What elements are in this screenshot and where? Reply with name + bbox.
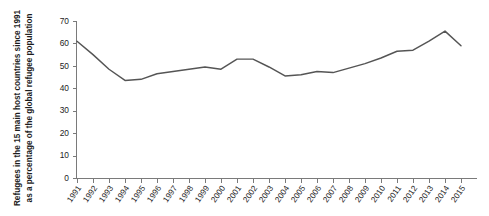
x-tick-label: 2009 [353,184,371,204]
x-tick-label: 2003 [257,184,275,204]
y-tick-label-group: 010203040506070 [60,16,70,183]
x-tick-label: 2015 [449,184,467,204]
x-tick-label: 2006 [305,184,323,204]
x-tick-label: 1992 [81,184,99,204]
x-tick-label: 1995 [129,184,147,204]
x-tick-label: 1991 [65,184,83,204]
x-tick-label: 2014 [433,184,451,204]
x-tick-label: 1994 [113,184,131,204]
x-tick-label: 1996 [145,184,163,204]
x-tick-label: 2000 [209,184,227,204]
x-tick-label: 1997 [161,184,179,204]
y-tick-label: 20 [60,128,70,138]
x-tick-label: 1998 [177,184,195,204]
data-series-line [77,31,461,80]
y-tick-label: 10 [60,150,70,160]
y-tick-label: 30 [60,105,70,115]
y-tick-label: 70 [60,16,70,26]
x-tick-label: 2011 [386,184,404,204]
x-tick-label-group: 1991199219931994199519961997199819992000… [65,184,467,204]
x-tick-label: 2013 [417,184,435,204]
y-tick-label: 40 [60,83,70,93]
x-tick-label: 2004 [273,184,291,204]
y-tick-label: 0 [64,173,69,183]
x-tick-label: 2001 [225,184,243,204]
chart-figure: Refugees in the 15 main host countries s… [0,0,489,216]
x-tick-label: 2005 [289,184,307,204]
x-tick-label: 2012 [401,184,419,204]
line-chart-plot: 010203040506070 199119921993199419951996… [0,0,489,216]
x-tick-mark-group [78,179,462,184]
x-tick-label: 2002 [241,184,259,204]
x-tick-label: 2007 [321,184,339,204]
x-tick-label: 1999 [193,184,211,204]
y-tick-mark-group [73,22,77,179]
x-tick-label: 1993 [97,184,115,204]
y-tick-label: 50 [60,61,70,71]
y-tick-label: 60 [60,38,70,48]
x-tick-label: 2008 [337,184,355,204]
x-tick-label: 2010 [369,184,387,204]
